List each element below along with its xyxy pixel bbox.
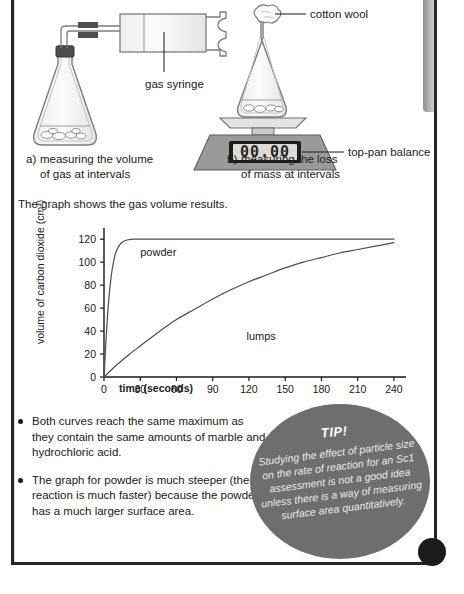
- chart-x-tick-label: 240: [385, 383, 403, 395]
- list-item: Both curves reach the same maximum as th…: [18, 414, 268, 461]
- figure-a-caption-line1: measuring the volume: [40, 152, 153, 167]
- label-gas-syringe: gas syringe: [145, 78, 204, 90]
- gas-volume-chart: volume of carbon dioxide (cm³) time (sec…: [14, 222, 414, 397]
- chart-y-tick-label: 80: [84, 279, 96, 291]
- tip-body: Studying the effect of particle size on …: [252, 435, 427, 525]
- chart-x-tick-label: 90: [207, 383, 219, 395]
- chart-plot-svg: 0204060801001200306090120150180210240pow…: [14, 222, 414, 397]
- gas-syringe-barrel: [120, 14, 206, 52]
- chart-series-label-lumps: lumps: [247, 330, 277, 342]
- figure-b-caption-line2: of mass at intervals: [241, 167, 340, 182]
- chart-y-axis-label: volume of carbon dioxide (cm³): [34, 204, 46, 344]
- tip-title: TIP!: [320, 423, 348, 440]
- label-cotton-wool: cotton wool: [310, 8, 368, 20]
- note-text: The graph for powder is much steeper (th…: [32, 473, 268, 520]
- notes-list: Both curves reach the same maximum as th…: [18, 414, 268, 531]
- bullet-icon: [18, 414, 32, 461]
- list-item: The graph for powder is much steeper (th…: [18, 473, 268, 520]
- figure-b-key: b): [227, 152, 241, 167]
- apparatus-diagrams: gas syringe: [14, 4, 434, 150]
- note-text: Both curves reach the same maximum as th…: [32, 414, 268, 461]
- figure-b-caption: b) measuring the loss of mass at interva…: [227, 152, 417, 182]
- chart-x-tick-label: 210: [349, 383, 367, 395]
- chart-y-tick-label: 20: [84, 348, 96, 360]
- apparatus-svg: gas syringe: [14, 4, 434, 150]
- chart-x-axis-label: time (seconds): [119, 382, 193, 394]
- tube-connector-bottom: [78, 32, 98, 38]
- tip-callout: TIP! Studying the effect of particle siz…: [250, 404, 430, 559]
- conical-flask-b: [238, 21, 287, 117]
- balance-pan-stem: [252, 128, 274, 135]
- chart-y-tick-label: 100: [78, 256, 96, 268]
- chart-x-tick-label: 0: [101, 383, 107, 395]
- figure-a-caption-line2: of gas at intervals: [40, 167, 130, 182]
- balance-pan: [220, 118, 306, 128]
- bullet-icon: [18, 473, 32, 520]
- intro-text: The graph shows the gas volume results.: [18, 198, 228, 210]
- chart-x-tick-label: 150: [276, 383, 294, 395]
- figure-b-caption-line1: measuring the loss: [241, 152, 338, 167]
- chart-y-tick-label: 40: [84, 325, 96, 337]
- tip-content: TIP! Studying the effect of particle siz…: [241, 394, 439, 570]
- figure-a-caption: a) measuring the volume of gas at interv…: [26, 152, 216, 182]
- gas-syringe-plunger: [206, 12, 226, 56]
- tube-connector-top: [78, 22, 98, 28]
- conical-flask-a: [34, 46, 97, 145]
- chart-x-tick-label: 120: [240, 383, 258, 395]
- chart-series-label-powder: powder: [140, 246, 176, 258]
- chart-series-powder: [104, 239, 394, 377]
- figure-a-key: a): [26, 152, 40, 167]
- chart-x-tick-label: 180: [313, 383, 331, 395]
- chart-y-tick-label: 0: [90, 371, 96, 383]
- rubber-bung-a: [56, 46, 74, 57]
- chart-y-tick-label: 60: [84, 302, 96, 314]
- chart-series-lumps: [104, 243, 394, 377]
- chart-y-tick-label: 120: [78, 233, 96, 245]
